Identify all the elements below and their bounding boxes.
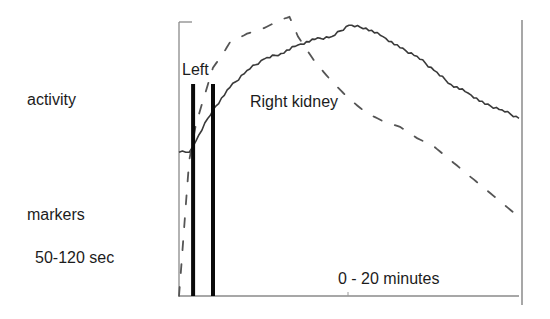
x-axis: [179, 292, 519, 296]
right-kidney-curve: [179, 25, 519, 152]
left-kidney-curve: [179, 17, 519, 296]
renogram-chart: [0, 0, 550, 319]
